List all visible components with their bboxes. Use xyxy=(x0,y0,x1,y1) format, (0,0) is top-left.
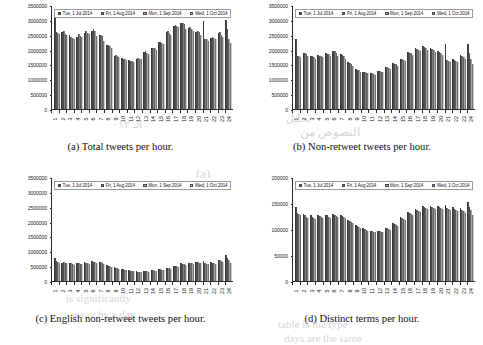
x-label-cell: 4 xyxy=(74,283,82,305)
x-tick-label: 24 xyxy=(226,288,232,294)
bar-group xyxy=(444,6,451,109)
x-tick-label: 22 xyxy=(211,288,217,294)
bar-group xyxy=(414,178,421,281)
x-tick-label: 10 xyxy=(361,288,367,294)
bar-group xyxy=(217,178,224,281)
legend-swatch xyxy=(190,184,193,187)
x-tick-label: 14 xyxy=(392,288,398,294)
x-tick-label: 11 xyxy=(369,116,375,122)
bar-group xyxy=(225,6,232,109)
legend-item-2: Mon, 1 Sep 2014 xyxy=(385,11,423,16)
bar-group xyxy=(295,6,302,109)
bar-group xyxy=(150,178,157,281)
x-tick-label: 24 xyxy=(468,288,474,294)
x-label-cell: 16 xyxy=(406,111,414,133)
x-tick-label: 24 xyxy=(468,116,474,122)
bar-group xyxy=(217,6,224,109)
x-label-cell: 18 xyxy=(422,111,430,133)
legend-label: Tue, 1 Jul 2014 xyxy=(303,11,333,16)
legend-swatch xyxy=(299,184,302,187)
legend-item-2: Mon, 1 Sep 2014 xyxy=(385,183,423,188)
x-label-cell: 6 xyxy=(89,111,97,133)
y-tick-label: 0 xyxy=(285,107,288,113)
y-tick-label: 100000 xyxy=(272,227,288,233)
legend-item-1: Fri, 1 Aug 2014 xyxy=(342,183,376,188)
bar-group xyxy=(187,178,194,281)
chart-legend: Tue, 1 Jul 2014Fri, 1 Aug 2014Mon, 1 Sep… xyxy=(295,9,473,18)
y-tick-label: 0 xyxy=(285,279,288,285)
legend-swatch xyxy=(385,184,388,187)
bar-group xyxy=(362,6,369,109)
chart-panel-a: 3500000300000025000002000000150000010000… xyxy=(0,0,241,172)
x-tick-label: 11 xyxy=(128,288,134,294)
x-label-cell: 24 xyxy=(467,111,475,133)
legend-swatch xyxy=(190,12,193,15)
x-label-cell: 10 xyxy=(361,283,369,305)
x-label-cell: 12 xyxy=(376,283,384,305)
y-tick-label: 3500000 xyxy=(28,3,47,9)
bar-group xyxy=(347,6,354,109)
x-tick-label: 22 xyxy=(453,116,459,122)
x-tick-label: 16 xyxy=(407,116,413,122)
legend-label: Tue, 1 Jul 2014 xyxy=(62,11,92,16)
x-tick-label: 19 xyxy=(188,288,194,294)
legend-item-1: Fri, 1 Aug 2014 xyxy=(342,11,376,16)
legend-swatch xyxy=(385,12,388,15)
legend-swatch xyxy=(432,12,435,15)
y-tick-label: 50000 xyxy=(274,253,288,259)
x-label-cell: 23 xyxy=(218,111,226,133)
x-tick-label: 5 xyxy=(82,118,88,121)
x-label-cell: 11 xyxy=(127,111,135,133)
legend-swatch xyxy=(342,12,345,15)
x-label-cell: 15 xyxy=(399,283,407,305)
x-tick-label: 1 xyxy=(293,118,299,121)
chart-legend: Tue, 1 Jul 2014Fri, 1 Aug 2014Mon, 1 Sep… xyxy=(54,9,231,18)
bar-group xyxy=(459,178,466,281)
bar-group xyxy=(158,178,165,281)
x-tick-label: 20 xyxy=(196,116,202,122)
x-label-cell: 12 xyxy=(134,283,142,305)
legend-item-3: Wed, 1 Oct 2014 xyxy=(190,11,227,16)
x-tick-label: 13 xyxy=(143,288,149,294)
x-label-cell: 17 xyxy=(172,283,180,305)
bar-group xyxy=(54,178,61,281)
x-label-cell: 20 xyxy=(195,111,203,133)
x-tick-label: 11 xyxy=(128,116,134,122)
plot-wrapper: 2000001500001000005000001234567891011121… xyxy=(247,178,475,306)
bar-group xyxy=(407,178,414,281)
y-tick-label: 500000 xyxy=(272,92,288,98)
y-tick-label: 2000000 xyxy=(269,48,288,54)
chart-legend: Tue, 1 Jul 2014Fri, 1 Aug 2014Mon, 1 Sep… xyxy=(295,181,473,190)
x-label-cell: 10 xyxy=(361,111,369,133)
x-label-cell: 9 xyxy=(112,283,120,305)
x-tick-label: 8 xyxy=(105,290,111,293)
legend-label: Fri, 1 Aug 2014 xyxy=(347,183,376,188)
legend-item-3: Wed, 1 Oct 2014 xyxy=(432,11,469,16)
y-axis-labels: 200000150000100000500000 xyxy=(247,178,291,282)
bar-group xyxy=(354,6,361,109)
bar-group xyxy=(467,6,474,109)
x-tick-label: 9 xyxy=(112,118,118,121)
bar-group xyxy=(392,6,399,109)
legend-swatch xyxy=(432,184,435,187)
x-tick-label: 6 xyxy=(90,290,96,293)
x-label-cell: 21 xyxy=(445,283,453,305)
bar-group xyxy=(106,178,113,281)
legend-swatch xyxy=(101,12,104,15)
bar-groups xyxy=(52,178,233,281)
bar-group xyxy=(399,6,406,109)
x-tick-label: 2 xyxy=(59,290,65,293)
x-tick-label: 13 xyxy=(384,288,390,294)
legend-label: Wed, 1 Oct 2014 xyxy=(437,183,470,188)
x-label-cell: 12 xyxy=(376,111,384,133)
x-label-cell: 22 xyxy=(210,111,218,133)
y-tick-label: 2000000 xyxy=(28,48,47,54)
legend-label: Fri, 1 Aug 2014 xyxy=(106,183,135,188)
bar-group xyxy=(309,6,316,109)
bar-group xyxy=(437,6,444,109)
x-label-cell: 8 xyxy=(104,283,112,305)
bar-group xyxy=(210,6,217,109)
x-label-cell: 6 xyxy=(330,111,338,133)
x-tick-label: 8 xyxy=(346,290,352,293)
legend-swatch xyxy=(58,184,61,187)
